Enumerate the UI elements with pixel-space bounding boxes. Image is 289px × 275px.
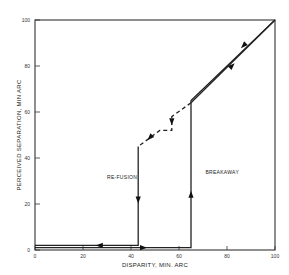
x-tick-label: 80 [224,253,230,259]
x-tick-label: 100 [271,253,280,259]
y-axis-ticks: 020406080100 [22,17,40,253]
x-axis-title: DISPARITY, MIN. ARC [122,262,189,268]
series-line-1 [191,20,275,103]
direction-arrow [188,191,193,198]
y-tick-label: 0 [27,247,30,253]
x-tick-label: 60 [176,253,182,259]
direction-arrow [136,196,141,203]
y-axis-title: PERCEIVED SEPARATION, MIN ARC [16,79,22,191]
series-line-3 [35,147,138,246]
y-tick-label: 100 [22,17,31,23]
series-line-2 [138,103,191,147]
y-tick-label: 20 [24,201,30,207]
series-line-0 [35,20,275,248]
series-group [35,20,275,248]
hysteresis-chart: 020406080100 020406080100 RE-FUSIONBREAK… [0,0,289,275]
annotation-label: RE-FUSION [107,174,137,180]
y-tick-label: 80 [24,63,30,69]
x-tick-label: 40 [128,253,134,259]
y-tick-label: 60 [24,109,30,115]
x-tick-label: 0 [34,253,37,259]
x-tick-label: 20 [80,253,86,259]
annotation-group: RE-FUSIONBREAKAWAY [107,169,239,180]
y-tick-label: 40 [24,155,30,161]
annotation-label: BREAKAWAY [205,169,239,175]
arrow-group [96,41,248,250]
direction-arrow [169,118,174,125]
